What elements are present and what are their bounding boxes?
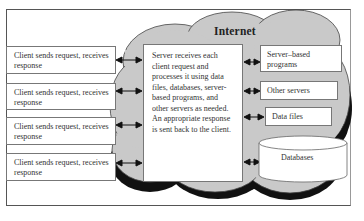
client-label: Client sends request, receives response bbox=[14, 122, 109, 141]
data-files-box: Data files bbox=[265, 107, 332, 126]
client-label: Client sends request, receives response bbox=[14, 88, 109, 107]
server-box: Server receives each client request and … bbox=[143, 44, 243, 182]
client-box-3: Client sends request, receives response bbox=[6, 117, 116, 145]
resource-label: Other servers bbox=[267, 86, 310, 95]
server-based-programs-box: Server–based programs bbox=[260, 45, 342, 72]
client-box-1: Client sends request, receives response bbox=[6, 46, 116, 74]
server-description: Server receives each client request and … bbox=[152, 51, 231, 134]
resource-label: Server–based programs bbox=[267, 50, 310, 69]
client-box-2: Client sends request, receives response bbox=[6, 83, 116, 110]
other-servers-box: Other servers bbox=[260, 81, 338, 100]
client-label: Client sends request, receives response bbox=[14, 51, 109, 70]
databases-label: Databases bbox=[281, 153, 313, 162]
internet-title: Internet bbox=[214, 25, 256, 37]
client-label: Client sends request, receives response bbox=[14, 158, 109, 177]
client-box-4: Client sends request, receives response bbox=[6, 153, 116, 181]
resource-label: Data files bbox=[272, 112, 303, 121]
